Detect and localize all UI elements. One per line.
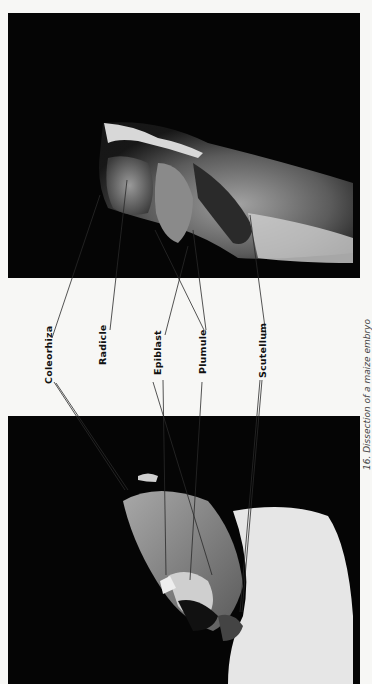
photo-top-embryo bbox=[8, 13, 360, 278]
label-epiblast: Epiblast bbox=[152, 330, 163, 375]
embryo-top-illustration bbox=[8, 13, 360, 278]
label-coleorhiza: Coleorhiza bbox=[43, 326, 54, 384]
figure-caption: 16. Dissection of a maize embryo bbox=[362, 319, 372, 470]
label-scutellum: Scutellum bbox=[257, 323, 268, 378]
label-plumule: Plumule bbox=[197, 329, 208, 374]
label-radicle: Radicle bbox=[97, 324, 108, 365]
embryo-bottom-illustration bbox=[8, 416, 360, 684]
photo-bottom-embryo bbox=[8, 416, 360, 684]
